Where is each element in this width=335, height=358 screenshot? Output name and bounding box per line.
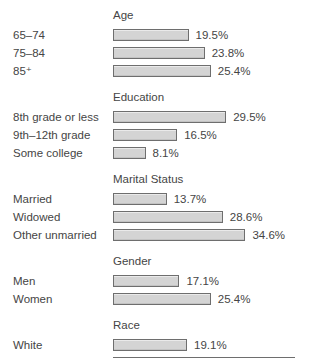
bar-value-label: 8.1% <box>153 147 179 159</box>
bar-row-85: 85⁺25.4% <box>0 62 335 80</box>
bar-value-label: 23.8% <box>212 47 245 59</box>
bar-row-widowed: Widowed28.6% <box>0 208 335 226</box>
category-label: White <box>0 339 113 351</box>
bar <box>113 65 211 77</box>
bar-value-label: 13.7% <box>174 193 207 205</box>
bar-value-label: 25.4% <box>218 65 251 77</box>
group-title: Race <box>113 319 140 331</box>
bar <box>113 193 167 205</box>
bar <box>113 293 211 305</box>
bar-row-men: Men17.1% <box>0 272 335 290</box>
bar-value-label: 19.5% <box>196 29 229 41</box>
bar <box>113 147 146 159</box>
bar-value-label: 16.5% <box>184 129 217 141</box>
group-header-row: Education <box>0 87 335 106</box>
group-gender: GenderMen17.1%Women25.4% <box>0 251 335 308</box>
group-title: Education <box>113 91 164 103</box>
bar-row-some-college: Some college8.1% <box>0 144 335 162</box>
category-label: Married <box>0 193 113 205</box>
category-label: Other unmarried <box>0 229 113 241</box>
category-label: Women <box>0 293 113 305</box>
bar-row-women: Women25.4% <box>0 290 335 308</box>
bar-row-8th-grade-or-less: 8th grade or less29.5% <box>0 108 335 126</box>
bar-row-black-and-hispanic: Black and Hispanic47.7% <box>0 354 335 358</box>
group-title: Gender <box>113 255 151 267</box>
category-label: 8th grade or less <box>0 111 113 123</box>
category-label: 85⁺ <box>0 64 113 78</box>
category-label: Some college <box>0 147 113 159</box>
group-header-row: Age <box>0 5 335 24</box>
category-label: Widowed <box>0 211 113 223</box>
bar <box>113 275 179 287</box>
bar <box>113 129 177 141</box>
bar-row-65-74: 65–7419.5% <box>0 26 335 44</box>
group-title: Marital Status <box>113 173 183 185</box>
bar <box>113 229 245 241</box>
bar <box>113 339 187 351</box>
group-education: Education8th grade or less29.5%9th–12th … <box>0 87 335 162</box>
bar <box>113 29 189 41</box>
bar-row-75-84: 75–8423.8% <box>0 44 335 62</box>
bar-value-label: 29.5% <box>233 111 266 123</box>
category-label: 9th–12th grade <box>0 129 113 141</box>
category-label: 65–74 <box>0 29 113 41</box>
grouped-bar-chart: Age65–7419.5%75–8423.8%85⁺25.4%Education… <box>0 0 335 358</box>
group-title: Age <box>113 9 133 21</box>
bar <box>113 47 205 59</box>
group-header-row: Marital Status <box>0 169 335 188</box>
bar-row-9th-12th-grade: 9th–12th grade16.5% <box>0 126 335 144</box>
bar-value-label: 34.6% <box>252 229 285 241</box>
bar-value-label: 28.6% <box>230 211 263 223</box>
bar-row-other-unmarried: Other unmarried34.6% <box>0 226 335 244</box>
group-race: RaceWhite19.1%Black and Hispanic47.7% <box>0 315 335 358</box>
bar-value-label: 25.4% <box>218 293 251 305</box>
bar-row-white: White19.1% <box>0 336 335 354</box>
group-header-row: Race <box>0 315 335 334</box>
bar-row-married: Married13.7% <box>0 190 335 208</box>
group-marital-status: Marital StatusMarried13.7%Widowed28.6%Ot… <box>0 169 335 244</box>
group-header-row: Gender <box>0 251 335 270</box>
category-label: 75–84 <box>0 47 113 59</box>
bar <box>113 211 223 223</box>
category-label: Men <box>0 275 113 287</box>
bar-value-label: 17.1% <box>186 275 219 287</box>
bar <box>113 111 226 123</box>
bar-value-label: 19.1% <box>194 339 227 351</box>
group-age: Age65–7419.5%75–8423.8%85⁺25.4% <box>0 5 335 80</box>
